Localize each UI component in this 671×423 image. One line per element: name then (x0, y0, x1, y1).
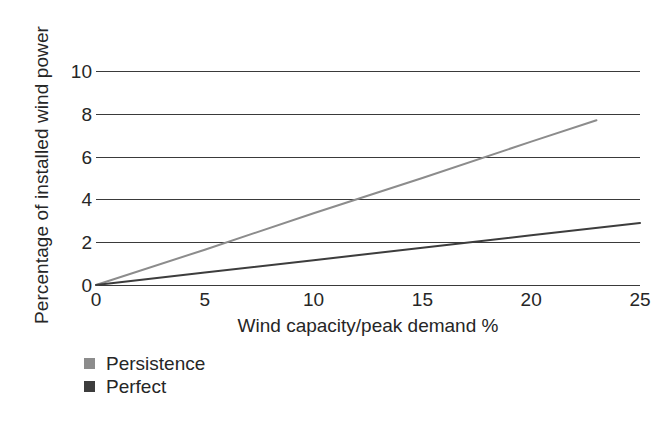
x-tick-label: 15 (392, 290, 452, 309)
series-line-persistence (96, 120, 596, 285)
gridline (96, 285, 640, 286)
x-axis-tick-labels: 0510152025 (96, 290, 640, 316)
x-tick-label: 10 (284, 290, 344, 309)
legend-item: Perfect (84, 375, 205, 398)
y-axis-tick-labels: 0246810 (56, 55, 92, 291)
legend-swatch-icon (84, 381, 95, 392)
x-tick-label: 0 (66, 290, 126, 309)
chart-legend: PersistencePerfect (84, 352, 205, 398)
y-tick-label: 8 (56, 104, 92, 123)
legend-label: Perfect (106, 377, 166, 396)
y-tick-label: 2 (56, 233, 92, 252)
y-tick-label: 4 (56, 190, 92, 209)
legend-swatch-icon (84, 358, 95, 369)
x-axis-title: Wind capacity/peak demand % (96, 315, 640, 337)
x-tick-label: 20 (501, 290, 561, 309)
y-tick-label: 10 (56, 62, 92, 81)
plot-area (96, 71, 640, 285)
series-lines (96, 71, 640, 285)
y-tick-label: 6 (56, 147, 92, 166)
y-axis-title: Percentage of installed wind power (31, 25, 53, 325)
wind-power-line-chart: Percentage of installed wind power 02468… (0, 0, 671, 423)
legend-label: Persistence (106, 354, 205, 373)
x-tick-label: 25 (610, 290, 670, 309)
series-line-perfect (96, 223, 640, 285)
legend-item: Persistence (84, 352, 205, 375)
x-tick-label: 5 (175, 290, 235, 309)
